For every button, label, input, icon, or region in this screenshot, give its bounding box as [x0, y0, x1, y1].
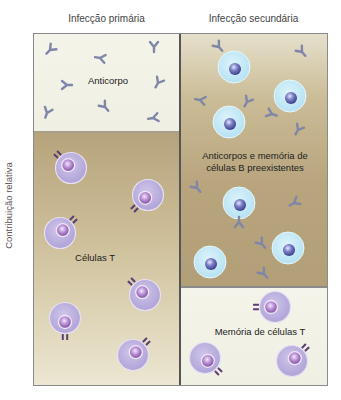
antibody-icon — [152, 77, 164, 90]
antibody-icon — [241, 96, 253, 109]
t-cell-icon — [50, 303, 81, 341]
b-memory-cell-icon — [213, 106, 245, 138]
b-memory-cell-icon — [272, 232, 304, 264]
antibody-icon — [191, 182, 204, 195]
antibody-icon — [62, 81, 72, 89]
diagram-graphics — [0, 0, 341, 400]
t-cell-icon — [118, 337, 151, 370]
antibody-icon — [147, 113, 158, 123]
label-antibody: Anticorpo — [78, 75, 138, 87]
b-memory-cell-icon — [218, 51, 250, 83]
antibody-icon — [94, 53, 105, 63]
antibody-icon — [42, 107, 53, 119]
antibody-icon — [296, 46, 309, 59]
antibody-icon — [256, 238, 269, 251]
antibody-icon — [292, 124, 304, 137]
antibody-icon — [266, 109, 278, 120]
antibody-icon — [44, 44, 57, 57]
antibody-icon — [194, 95, 205, 105]
b-memory-cell-icon — [274, 80, 306, 112]
label-t-cells: Células T — [60, 252, 130, 264]
antibody-icon — [150, 42, 158, 52]
antibody-icon — [213, 41, 226, 54]
t-memory-cell-icon — [253, 292, 291, 323]
label-t-cell-memory: Memória de células T — [195, 326, 325, 338]
antibody-icon — [258, 268, 271, 281]
b-memory-cell-icon — [194, 246, 226, 278]
antibody-icon — [288, 197, 301, 209]
t-memory-cell-icon — [190, 343, 223, 376]
label-antibodies-b-memory: Anticorpos e memória de células B preexi… — [182, 150, 328, 174]
label-line-2: células B preexistentes — [182, 162, 328, 174]
label-line-1: Anticorpos e memória de — [182, 150, 328, 162]
b-memory-cell-icon — [223, 187, 255, 219]
t-cell-icon — [45, 215, 78, 248]
antibody-icon — [99, 101, 112, 114]
t-memory-cell-icon — [277, 343, 310, 376]
t-cell-icon — [130, 180, 163, 213]
t-cell-icon — [127, 277, 160, 310]
t-cell-icon — [53, 150, 86, 183]
